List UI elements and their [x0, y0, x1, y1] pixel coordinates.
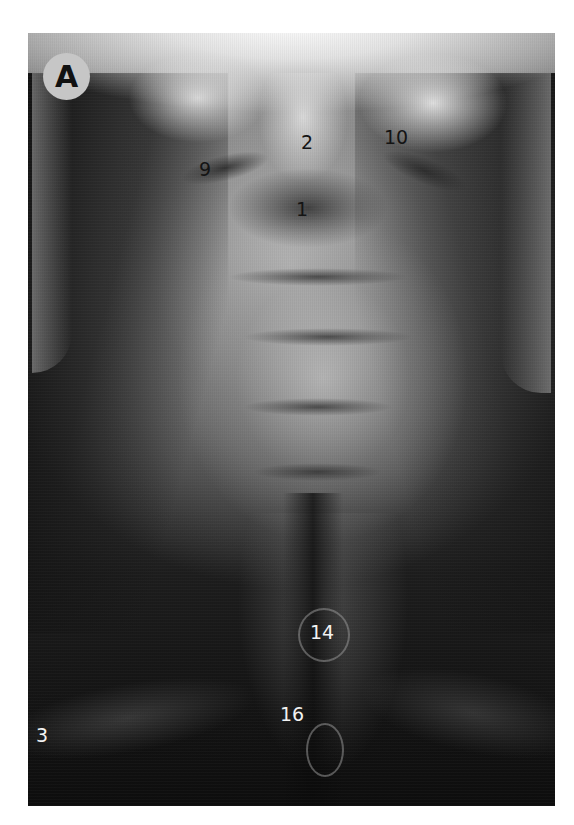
annotation-label: 1 — [296, 200, 308, 219]
clavicle-left — [28, 661, 262, 775]
radiograph-image — [28, 33, 555, 806]
soft-tissue-background — [28, 33, 555, 806]
annotation-label: 14 — [310, 623, 334, 642]
mandible-ramus-right — [501, 73, 551, 393]
annotation-label: 16 — [280, 705, 304, 724]
occipital-condyle-left — [128, 53, 268, 143]
annotation-label: 3 — [36, 726, 48, 745]
intervertebral-disc — [253, 463, 383, 481]
mandible-shadow-right — [355, 73, 555, 633]
annotation-label: 9 — [199, 160, 211, 179]
mandible-ramus-left — [32, 73, 72, 373]
clavicle-right — [352, 650, 555, 776]
vertebral-ring — [306, 723, 344, 777]
intervertebral-disc — [243, 328, 413, 346]
dens — [258, 73, 348, 183]
mandible-shadow-left — [28, 73, 228, 633]
panel-label-badge: A — [43, 53, 90, 100]
annotation-label: 10 — [384, 128, 408, 147]
intervertebral-disc — [228, 268, 408, 286]
atlanto-axial-joint-left — [178, 144, 272, 191]
annotation-label: 2 — [301, 133, 313, 152]
intervertebral-disc — [243, 398, 393, 416]
occipital-condyle-right — [358, 53, 508, 153]
cervical-vertebral-bodies — [178, 213, 468, 543]
atlanto-axial-joint-right — [378, 142, 471, 200]
film-grain — [28, 33, 555, 806]
skull-base — [28, 33, 555, 143]
